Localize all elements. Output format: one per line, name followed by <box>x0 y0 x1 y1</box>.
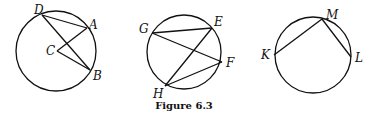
point-label-m: M <box>325 8 339 22</box>
circle-klm-figure: MKL <box>260 8 363 93</box>
point-label-d: D <box>33 3 44 17</box>
segment-gf <box>152 33 222 62</box>
point-label-l: L <box>354 51 363 65</box>
circle <box>16 11 96 91</box>
point-label-c: C <box>46 44 55 58</box>
point-label-f: F <box>225 56 235 70</box>
segment-mk <box>274 19 322 55</box>
circle <box>275 17 351 93</box>
segment-da <box>42 15 87 28</box>
point-label-e: E <box>213 15 223 29</box>
segment-db <box>42 15 90 70</box>
segment-cb <box>57 51 90 70</box>
figure-caption: Figure 6.3 <box>155 100 213 111</box>
figure-6-3: DACBGEFHMKL Figure 6.3 <box>0 0 374 115</box>
point-label-b: B <box>92 69 102 83</box>
point-label-h: H <box>152 87 164 101</box>
point-label-a: A <box>88 18 98 32</box>
circle-efgh-figure: GEFH <box>139 15 235 101</box>
circle-c-figure: DACB <box>16 3 102 91</box>
segment-he <box>165 28 212 86</box>
point-label-g: G <box>139 22 149 36</box>
segment-ge <box>152 28 212 33</box>
segment-ca <box>57 28 87 51</box>
point-label-k: K <box>260 48 271 62</box>
